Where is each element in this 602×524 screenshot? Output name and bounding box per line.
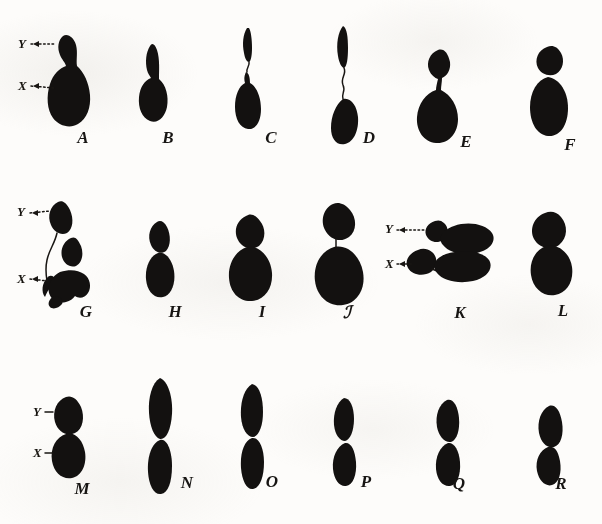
figure-C-x-arm — [235, 72, 261, 129]
chromosome-plate: Y X A B C D E — [0, 0, 602, 524]
figure-A-caption: A — [76, 128, 88, 147]
figure-G-x-arrowhead — [32, 276, 38, 282]
figure-N: N — [148, 378, 194, 494]
figure-M-y-label: Y — [33, 404, 42, 419]
figure-P-lower-arm — [333, 443, 356, 486]
figure-M-x-label: X — [32, 445, 42, 460]
figure-C-thread — [247, 62, 249, 72]
figure-H-x-arm — [146, 253, 175, 298]
figure-R-caption: R — [554, 474, 566, 493]
figure-G-y-arm — [49, 201, 72, 234]
figure-Q: Q — [436, 400, 465, 493]
figure-P-upper-arm — [334, 398, 354, 441]
figure-K-y-label: Y — [385, 221, 394, 236]
figure-J-y-arm — [323, 203, 355, 240]
figure-C-caption: C — [265, 128, 277, 147]
figure-L-y-arm — [532, 212, 566, 248]
figure-O-lower-arm — [241, 438, 264, 489]
figure-J: ℐ — [315, 203, 364, 322]
figure-D: D — [331, 26, 375, 147]
figure-L-caption: L — [557, 301, 568, 320]
figure-C-y-arm — [243, 28, 252, 62]
figure-L: L — [531, 212, 573, 320]
figure-N-lower-arm — [148, 440, 172, 494]
figure-N-caption: N — [180, 473, 194, 492]
figure-R: R — [537, 406, 567, 493]
figure-O-upper-arm — [241, 384, 263, 437]
figure-G-caption: G — [80, 302, 93, 321]
figure-A-x-arrowhead — [33, 83, 39, 89]
figure-F-y-arm — [536, 46, 563, 75]
figure-Q-caption: Q — [453, 474, 465, 493]
figure-B-caption: B — [161, 128, 173, 147]
figure-A-y-arrowhead — [33, 41, 39, 47]
figure-D-y-arm — [337, 26, 348, 68]
figure-H-caption: H — [167, 302, 182, 321]
figure-I: I — [229, 214, 272, 321]
figure-J-caption: ℐ — [343, 303, 355, 322]
figure-N-upper-arm — [149, 378, 172, 439]
figure-K-lower-y-arm — [407, 249, 437, 275]
figure-G: Y X G — [16, 201, 93, 321]
figure-A-x-label: X — [17, 78, 27, 93]
figure-M-caption: M — [73, 479, 90, 498]
figure-C: C — [235, 28, 277, 147]
figure-I-caption: I — [258, 302, 267, 321]
figure-O-caption: O — [266, 472, 278, 491]
figure-E-chromosome — [417, 50, 458, 144]
figure-E-caption: E — [459, 132, 471, 151]
figure-A-chromosome — [48, 35, 91, 126]
figure-F-x-arm — [530, 77, 568, 136]
plate-canvas: Y X A B C D E — [0, 0, 602, 524]
figure-F: F — [530, 46, 576, 154]
figure-K-lower-x-arm — [434, 251, 490, 282]
figure-B-chromosome — [139, 44, 168, 122]
figure-P: P — [333, 398, 372, 491]
figure-P-caption: P — [360, 472, 372, 491]
figure-G-x-upper-lobe — [61, 237, 82, 266]
figure-E: E — [417, 50, 472, 151]
figure-G-y-label: Y — [17, 204, 26, 219]
figure-K-y-arrowhead — [399, 227, 405, 233]
figure-F-caption: F — [563, 135, 576, 154]
figure-M-y-arm — [54, 396, 83, 434]
figure-B: B — [139, 44, 174, 147]
figure-K-caption: K — [453, 303, 467, 322]
figure-M: Y X M — [32, 396, 90, 498]
figure-H: H — [146, 221, 183, 321]
figure-A-y-label: Y — [18, 36, 27, 51]
figure-I-y-arm — [236, 214, 265, 248]
figure-O: O — [241, 384, 278, 491]
figure-D-thread — [342, 68, 345, 99]
figure-D-x-arm — [331, 99, 358, 145]
figure-J-x-arm — [315, 247, 364, 306]
figure-K-x-arrowhead — [399, 261, 405, 267]
figure-L-x-arm — [531, 245, 573, 295]
figure-G-filament — [46, 233, 57, 281]
figure-K-upper-x-arm — [440, 224, 493, 255]
figure-I-x-arm — [229, 247, 272, 301]
figure-M-x-arm — [52, 433, 86, 478]
figure-G-x-label: X — [16, 271, 26, 286]
figure-H-y-arm — [149, 221, 170, 253]
figure-K: Y X K — [384, 220, 494, 322]
figure-A: Y X A — [17, 35, 90, 147]
figure-Q-upper-arm — [436, 400, 459, 442]
figure-R-upper-arm — [538, 406, 562, 448]
figure-G-y-arrowhead — [32, 210, 38, 216]
figure-D-caption: D — [362, 128, 375, 147]
figure-K-x-label: X — [384, 256, 394, 271]
